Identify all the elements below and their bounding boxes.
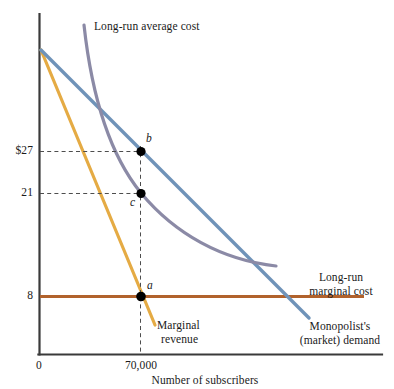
y-tick-label-8: 8	[0, 289, 33, 303]
point-label-b: b	[146, 132, 152, 146]
annotation-long-run-marginal-cost-line2: marginal cost	[288, 285, 394, 299]
annotation-demand-line1: Monopolist's	[286, 320, 394, 334]
point-label-a: a	[147, 279, 153, 293]
y-tick-label-21: 21	[0, 186, 33, 200]
point-marker-b	[136, 147, 145, 156]
point-marker-a	[136, 292, 146, 302]
origin-label: 0	[20, 359, 58, 373]
annotation-long-run-average-cost: Long-run average cost	[94, 20, 200, 34]
annotation-long-run-marginal-cost-line1: Long-run	[288, 271, 394, 285]
annotation-marginal-revenue-line2: revenue	[161, 333, 198, 347]
x-axis-title: Number of subscribers	[120, 374, 290, 388]
demand-line	[41, 50, 309, 318]
annotation-demand-line2: (market) demand	[286, 334, 394, 348]
monopoly-pricing-chart: $27 21 8 0 70,000 Number of subscribers …	[0, 0, 394, 389]
average-cost-curve	[84, 25, 276, 266]
point-marker-c	[136, 189, 145, 198]
annotation-marginal-revenue-line1: Marginal	[157, 319, 200, 333]
y-tick-label-27: $27	[0, 144, 33, 158]
x-tick-label-70000: 70,000	[105, 359, 177, 373]
point-label-c: c	[130, 196, 135, 210]
